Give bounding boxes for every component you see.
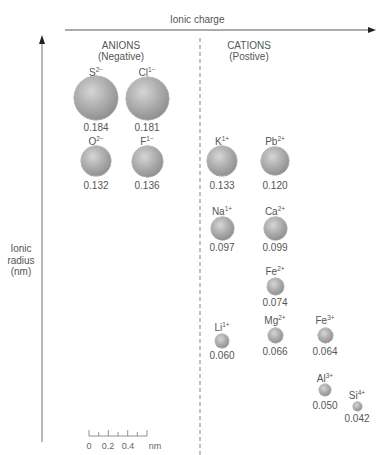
ion-sphere-al — [319, 384, 331, 396]
anions-subtitle: (Negative) — [98, 51, 144, 62]
scale-bar — [89, 430, 147, 436]
ion-charge: 1+ — [222, 321, 229, 328]
anions-header: ANIONS (Negative) — [98, 40, 144, 62]
ion-sphere-fe3 — [318, 328, 333, 343]
ion-label-si: Si4+ — [349, 390, 365, 401]
ion-symbol: Al — [317, 373, 326, 384]
ion-charge: 4+ — [358, 389, 365, 396]
ion-charge: 1− — [146, 135, 153, 142]
ion-radius-value-k: 0.133 — [209, 180, 234, 191]
ion-radius-value-ca: 0.099 — [262, 242, 287, 253]
ion-radius-value-li: 0.060 — [209, 350, 234, 361]
ion-sphere-li — [215, 334, 229, 348]
cations-title: CATIONS — [227, 40, 271, 51]
ion-symbol: Fe — [265, 266, 277, 277]
scale-label-0-2: 0.2 — [102, 441, 115, 451]
ion-label-pb: Pb2+ — [265, 136, 285, 147]
ion-radius-value-al: 0.050 — [312, 400, 337, 411]
ion-sphere-o — [81, 146, 111, 176]
ion-charge: 2+ — [277, 265, 284, 272]
ion-symbol: Fe — [315, 315, 327, 326]
ion-sphere-cl — [126, 77, 169, 120]
ion-radius-value-si: 0.042 — [344, 413, 369, 424]
ion-charge: 2− — [96, 135, 103, 142]
y-axis-title: Ionic radius (nm) — [7, 243, 34, 278]
ion-symbol: Si — [349, 390, 358, 401]
ion-radius-value-o: 0.132 — [83, 180, 108, 191]
scale-label-0: 0 — [86, 441, 91, 451]
ion-label-al: Al3+ — [317, 373, 333, 384]
ion-charge: 2− — [96, 66, 103, 73]
ion-label-fe2: Fe2+ — [265, 266, 284, 277]
ion-symbol: Na — [212, 206, 225, 217]
ion-label-li: Li1+ — [214, 322, 229, 333]
ion-symbol: Li — [214, 322, 222, 333]
ion-symbol: Ca — [265, 206, 278, 217]
ion-radius-value-mg: 0.066 — [262, 346, 287, 357]
y-axis-title-line-1: Ionic — [7, 243, 34, 255]
ion-charge: 1+ — [222, 135, 229, 142]
ion-radius-value-s: 0.184 — [83, 122, 108, 133]
ion-charge: 3+ — [326, 372, 333, 379]
ion-sphere-fe2 — [267, 278, 284, 295]
ion-sphere-na — [211, 217, 234, 240]
ion-label-ca: Ca2+ — [265, 206, 285, 217]
scale-label-unit: nm — [149, 441, 162, 451]
ion-charge: 2+ — [277, 135, 284, 142]
ion-sphere-mg — [268, 328, 283, 343]
ion-radius-value-f: 0.136 — [134, 180, 159, 191]
ion-label-fe3: Fe3+ — [315, 315, 334, 326]
ion-charge: 2+ — [278, 314, 285, 321]
ion-sphere-si — [353, 402, 362, 411]
anions-title: ANIONS — [98, 40, 144, 51]
ion-radius-value-fe2: 0.074 — [262, 297, 287, 308]
ion-radius-value-cl: 0.181 — [134, 122, 159, 133]
ion-sphere-s — [74, 76, 118, 120]
scale-label-0-4: 0.4 — [122, 441, 135, 451]
ion-sphere-f — [132, 146, 163, 177]
ion-radius-value-fe3: 0.064 — [312, 346, 337, 357]
ion-charge: 2+ — [278, 205, 285, 212]
ion-radius-value-na: 0.097 — [209, 242, 234, 253]
ion-charge: 1− — [148, 66, 155, 73]
x-axis-arrowhead-icon — [368, 27, 376, 33]
cations-header: CATIONS (Postive) — [227, 40, 271, 62]
ion-sphere-k — [207, 146, 237, 176]
y-axis-arrowhead-icon — [39, 35, 45, 44]
cations-subtitle: (Postive) — [227, 51, 271, 62]
ion-label-mg: Mg2+ — [264, 315, 285, 326]
ion-symbol: Pb — [265, 136, 277, 147]
ion-sphere-pb — [261, 147, 289, 175]
ion-label-na: Na1+ — [212, 206, 232, 217]
ion-charge: 3+ — [327, 314, 334, 321]
y-axis-title-line-2: radius — [7, 255, 34, 267]
ion-symbol: Mg — [264, 315, 278, 326]
y-axis-title-line-3: (nm) — [7, 266, 34, 278]
ion-radius-value-pb: 0.120 — [262, 180, 287, 191]
ion-sphere-ca — [264, 217, 287, 240]
x-axis-title: Ionic charge — [170, 14, 224, 25]
ion-charge: 1+ — [225, 205, 232, 212]
